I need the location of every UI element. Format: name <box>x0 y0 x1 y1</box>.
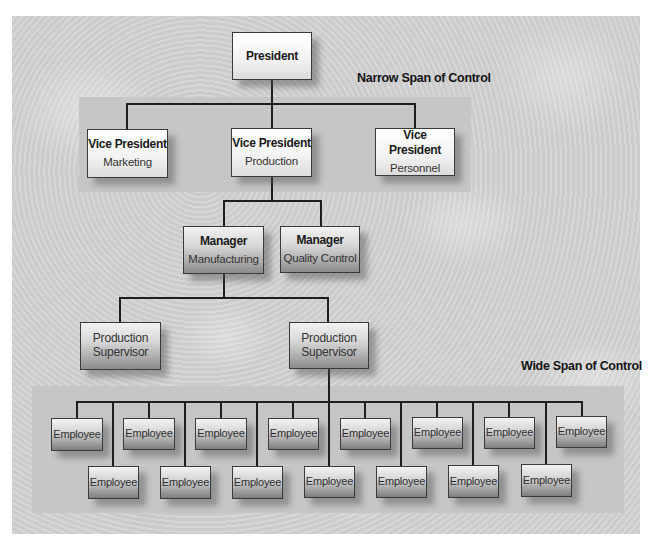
manager-manufacturing-title: Manager <box>200 234 247 249</box>
employee-top-7: Employee <box>484 417 535 449</box>
employee-bottom-5: Employee <box>376 466 427 498</box>
supervisor-right-line2: Supervisor <box>301 346 356 360</box>
president-box: President <box>232 32 312 80</box>
employee-bottom-1: Employee <box>88 466 139 499</box>
connector-employee-bottom-2 <box>184 401 186 466</box>
vp-marketing-title: Vice President <box>88 137 166 152</box>
manager-qc-box: Manager Quality Control <box>280 226 360 273</box>
connector-employee-bottom-6 <box>472 401 474 466</box>
connector-employee-top-3 <box>220 401 222 418</box>
employee-bottom-6: Employee <box>448 465 499 498</box>
supervisor-right-box: Production Supervisor <box>289 322 369 369</box>
connector-employee-top-1 <box>76 401 78 418</box>
connector-president-down <box>271 80 273 104</box>
manager-manufacturing-box: Manager Manufacturing <box>183 226 264 274</box>
manager-qc-department: Quality Control <box>283 251 356 265</box>
vp-personnel-department: Personnel <box>390 161 440 175</box>
employee-top-4: Employee <box>268 418 319 450</box>
connector-supervisor-left <box>119 297 121 323</box>
supervisor-left-box: Production Supervisor <box>80 322 161 370</box>
connector-employee-bottom-5 <box>400 401 402 466</box>
supervisor-left-line2: Supervisor <box>93 346 148 360</box>
employee-top-8: Employee <box>556 416 607 448</box>
connector-employee-bottom-7 <box>545 401 547 466</box>
supervisor-left-line1: Production <box>93 332 148 346</box>
president-title: President <box>246 49 298 64</box>
employee-top-6: Employee <box>412 417 463 449</box>
employee-top-1: Employee <box>51 418 103 451</box>
employee-top-5: Employee <box>340 418 391 450</box>
connector-vp-personnel <box>414 103 416 129</box>
connector-employee-top-2 <box>148 401 150 418</box>
manager-qc-title: Manager <box>296 233 343 248</box>
connector-manager-manufacturing <box>223 200 225 226</box>
connector-supervisor-right <box>327 297 329 323</box>
connector-employee-bottom-3 <box>256 401 258 466</box>
connector-manufacturing-down <box>223 274 225 299</box>
connector-manager-qc <box>320 200 322 226</box>
vp-production-department: Production <box>245 154 298 168</box>
connector-employee-horizontal <box>76 401 583 403</box>
manager-manufacturing-department: Manufacturing <box>188 252 258 266</box>
supervisor-right-line1: Production <box>301 332 356 346</box>
connector-vp-production <box>271 103 273 129</box>
employee-bottom-7: Employee <box>521 464 572 497</box>
connector-employee-top-6 <box>436 401 438 418</box>
connector-vp-production-down <box>271 177 273 202</box>
vp-production-box: Vice President Production <box>231 128 312 177</box>
connector-employee-top-5 <box>364 401 366 418</box>
connector-supervisor-right-down <box>328 369 330 466</box>
employee-bottom-4: Employee <box>304 466 355 498</box>
employee-bottom-3: Employee <box>232 466 283 499</box>
employee-bottom-2: Employee <box>160 466 211 499</box>
narrow-span-label: Narrow Span of Control <box>357 71 491 85</box>
vp-marketing-box: Vice President Marketing <box>87 129 168 178</box>
vp-production-title: Vice President <box>232 136 310 151</box>
connector-supervisor-horizontal <box>119 297 329 299</box>
employee-top-2: Employee <box>123 418 175 450</box>
employee-top-3: Employee <box>195 418 247 450</box>
connector-employee-top-4 <box>292 401 294 418</box>
wide-span-label: Wide Span of Control <box>521 359 642 373</box>
vp-marketing-department: Marketing <box>103 155 152 169</box>
connector-vp-marketing <box>126 103 128 129</box>
vp-personnel-title: Vice President <box>376 128 454 158</box>
connector-manager-horizontal <box>223 200 322 202</box>
vp-personnel-box: Vice President Personnel <box>375 128 455 176</box>
connector-employee-top-7 <box>508 401 510 418</box>
connector-employee-bottom-1 <box>112 401 114 466</box>
